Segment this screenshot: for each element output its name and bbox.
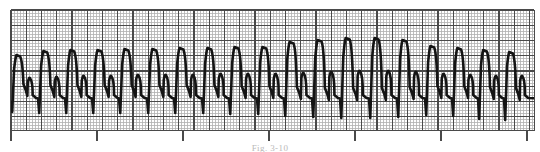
ecg-figure: Fig. 3-10	[0, 0, 540, 152]
figure-caption: Fig. 3-10	[0, 143, 540, 152]
ecg-chart	[0, 0, 540, 152]
